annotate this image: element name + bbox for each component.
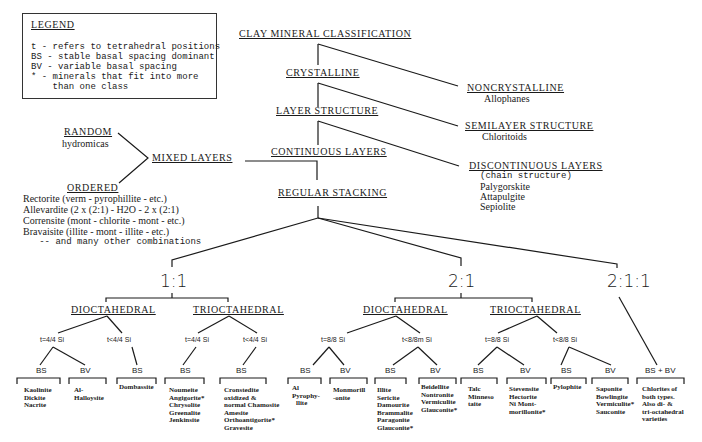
legend-line: BV - variable basal spacing bbox=[31, 62, 177, 72]
noncrystalline-node: NONCRYSTALLINE bbox=[467, 82, 564, 93]
spacing-label: BS + BV bbox=[645, 366, 675, 375]
condition-label: t=8/8 Si bbox=[485, 336, 509, 343]
condition-label: t<8/8 Si bbox=[553, 336, 577, 343]
leaf-group-montmorillonite: Monmorill -onite bbox=[333, 387, 365, 402]
ratio-2-1: 2:1 bbox=[448, 271, 475, 291]
condition-label: t<8/8m Si bbox=[402, 336, 432, 343]
random-item: hydromicas bbox=[62, 138, 109, 149]
legend-title: LEGEND bbox=[31, 19, 75, 30]
mineral: Sauconite bbox=[596, 409, 634, 417]
spacing-label: BS bbox=[36, 366, 47, 375]
mineral: llite bbox=[292, 400, 320, 408]
spacing-label: BS bbox=[561, 366, 572, 375]
crystalline-node: CRYSTALLINE bbox=[286, 67, 360, 78]
dioctahedral-1-1: DIOCTAHEDRAL bbox=[71, 304, 156, 315]
leaf-group-noumeite: Noumeite Angigorite* Chrysolite Greenali… bbox=[169, 387, 204, 425]
mineral: morillonite* bbox=[509, 409, 546, 417]
leaf-group-illite: Illite Sericite Damourite Brammalite Par… bbox=[377, 387, 413, 432]
random-node: RANDOM bbox=[64, 126, 112, 137]
ordered-item: -- and many other combinations bbox=[23, 237, 201, 247]
leaf-group-halloysite: Al- Halloysite bbox=[74, 387, 104, 402]
spacing-label: BV bbox=[430, 366, 441, 375]
discontinuous-item: (chain structure) bbox=[480, 171, 572, 181]
mineral: Glauconite* bbox=[377, 425, 413, 433]
mineral: taite bbox=[468, 401, 494, 409]
spacing-label: BV bbox=[340, 366, 351, 375]
mineral: Pylophite bbox=[553, 384, 581, 392]
discontinuous-item: Sepiolite bbox=[480, 201, 516, 212]
semilayer-node: SEMILAYER STRUCTURE bbox=[465, 120, 594, 131]
spacing-label: BS bbox=[385, 366, 396, 375]
legend-line: than one class bbox=[31, 82, 128, 92]
mineral: -onite bbox=[333, 395, 365, 403]
mineral: Jenkinsite bbox=[169, 417, 204, 425]
leaf-group-beidellite: Beidellite Nontronite Vermiculite Glauco… bbox=[421, 384, 457, 414]
discontinuous-layers-node: DISCONTINUOUS LAYERS bbox=[469, 160, 603, 171]
ratio-1-1: 1:1 bbox=[160, 271, 187, 291]
leaf-group-pylophite: Pylophite bbox=[553, 384, 581, 392]
ordered-item: Rectorite (verm - pyrophillite - etc.) bbox=[23, 193, 167, 204]
ordered-item: Bravaisite (illite - mont - illite - etc… bbox=[23, 226, 169, 237]
ordered-node: ORDERED bbox=[67, 182, 118, 193]
condition-label: t=4/4 Si bbox=[40, 336, 64, 343]
layer-structure-node: LAYER STRUCTURE bbox=[276, 105, 378, 116]
mineral: varieties bbox=[642, 416, 684, 424]
spacing-label: BV bbox=[605, 366, 616, 375]
mineral: Nacrite bbox=[24, 402, 52, 410]
mineral: Glauconite* bbox=[421, 407, 457, 415]
condition-label: t<4/4 Si bbox=[243, 336, 267, 343]
leaf-group-stevensite: Stevensite Hectorite Ni Mont- morillonit… bbox=[509, 386, 546, 416]
legend-line: t - refers to tetrahedral positions bbox=[31, 42, 220, 52]
spacing-label: BV bbox=[520, 366, 531, 375]
mineral: Dombassite bbox=[119, 384, 154, 392]
leaf-group-dombassite: Dombassite bbox=[119, 384, 154, 392]
noncrystalline-item: Allophanes bbox=[484, 93, 530, 104]
spacing-label: BS bbox=[132, 366, 143, 375]
semilayer-item: Chloritoids bbox=[482, 131, 527, 142]
mixed-layers-node: MIXED LAYERS bbox=[152, 152, 232, 163]
trioctahedral-2-1: TRIOCTAHEDRAL bbox=[490, 304, 581, 315]
ratio-2-1-1: 2:1:1 bbox=[607, 271, 651, 291]
dioctahedral-2-1: DIOCTAHEDRAL bbox=[363, 304, 448, 315]
spacing-label: BS bbox=[300, 366, 311, 375]
spacing-label: BS bbox=[473, 366, 484, 375]
ordered-item: Corrensite (mont - chlorite - mont - etc… bbox=[23, 215, 185, 226]
leaf-group-pyrophyllite: Al Pyrophy- llite bbox=[292, 385, 320, 408]
spacing-label: BV bbox=[80, 366, 91, 375]
legend-line: * - minerals that fit into more bbox=[31, 72, 198, 82]
leaf-group-talc: Talc Minneso taite bbox=[468, 386, 494, 409]
leaf-group-chlorites: Chlorites of both types. Also di- & tri-… bbox=[642, 386, 684, 424]
condition-label: t<4/4 Si bbox=[107, 336, 131, 343]
condition-label: t=8/8 Si bbox=[321, 336, 345, 343]
mineral: Gravesite bbox=[224, 425, 279, 433]
continuous-layers-node: CONTINUOUS LAYERS bbox=[271, 146, 387, 157]
spacing-label: BS bbox=[236, 366, 247, 375]
regular-stacking-node: REGULAR STACKING bbox=[278, 187, 387, 198]
spacing-label: BS bbox=[180, 366, 191, 375]
mineral: Halloysite bbox=[74, 395, 104, 403]
ordered-item: Allevardite (2 x (2:1) - H2O - 2 x (2:1) bbox=[23, 204, 179, 215]
root-node: CLAY MINERAL CLASSIFICATION bbox=[239, 28, 411, 39]
leaf-group-kaolinite: Kaolinite Dickite Nacrite bbox=[24, 387, 52, 410]
trioctahedral-1-1: TRIOCTAHEDRAL bbox=[193, 304, 284, 315]
legend-line: BS - stable basal spacing dominant bbox=[31, 52, 215, 62]
leaf-group-cronstedite: Cronstedite oxidized & normal Chamosite … bbox=[224, 387, 279, 432]
legend-box: LEGEND t - refers to tetrahedral positio… bbox=[22, 13, 217, 99]
leaf-group-saponite: Saponite Bowlingite Vermiculite* Sauconi… bbox=[596, 386, 634, 416]
condition-label: t=4/4 Si bbox=[185, 336, 209, 343]
